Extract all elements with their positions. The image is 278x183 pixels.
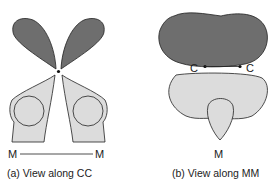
label-m-right: M <box>95 148 104 160</box>
metal-orbital-lobe <box>207 99 233 141</box>
carbon-atom <box>57 70 60 73</box>
label-m: M <box>214 148 223 160</box>
metal-orbital-left <box>14 96 44 126</box>
dark-lobe-top <box>159 13 268 67</box>
orbital-diagram: M M (a) View along CC C C M (b) View alo… <box>0 0 278 183</box>
metal-orbital-right <box>73 96 103 126</box>
dark-lobe-upper-left <box>13 19 56 70</box>
caption-a: (a) View along CC <box>7 167 92 179</box>
dark-lobe-upper-right <box>61 19 104 70</box>
label-c-left: C <box>190 62 198 74</box>
carbon-atom-right <box>238 65 241 68</box>
label-c-right: C <box>246 62 254 74</box>
label-m-left: M <box>8 148 17 160</box>
panel-b: C C M (b) View along MM <box>159 13 268 179</box>
caption-b: (b) View along MM <box>172 167 259 179</box>
panel-a: M M (a) View along CC <box>7 19 107 180</box>
